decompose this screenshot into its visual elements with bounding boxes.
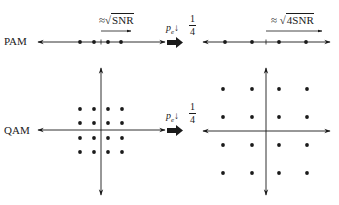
qam-fraction: 1 4 bbox=[189, 102, 196, 125]
constellation-point bbox=[106, 107, 110, 111]
constellation-point bbox=[106, 136, 110, 140]
constellation-point bbox=[78, 40, 82, 44]
constellation-point bbox=[221, 115, 225, 119]
radicand: SNR bbox=[111, 13, 133, 26]
pam-error-prob-label: pe↓ bbox=[166, 22, 179, 36]
qam-after-constellation bbox=[203, 68, 330, 195]
constellation-point bbox=[78, 150, 82, 154]
constellation-point bbox=[120, 107, 124, 111]
sqrt-symbol: √ bbox=[280, 14, 286, 26]
constellation-point bbox=[250, 40, 254, 44]
constellation-point bbox=[250, 87, 254, 91]
qam-transition-arrow-icon bbox=[167, 125, 183, 136]
constellation-point bbox=[78, 136, 82, 140]
constellation-point bbox=[277, 143, 281, 147]
constellation-point bbox=[223, 40, 227, 44]
constellation-point bbox=[119, 40, 123, 44]
pam-fraction: 1 4 bbox=[189, 14, 196, 37]
constellation-point bbox=[250, 171, 254, 175]
constellation-point bbox=[221, 87, 225, 91]
constellation-point bbox=[106, 40, 110, 44]
pam-before-constellation bbox=[38, 40, 165, 45]
constellation-point bbox=[92, 150, 96, 154]
constellation-point bbox=[92, 40, 96, 44]
pam-transition-arrow-icon bbox=[167, 37, 183, 48]
qam-label: QAM bbox=[4, 125, 30, 136]
constellation-point bbox=[277, 115, 281, 119]
constellation-point bbox=[78, 107, 82, 111]
pam-label: PAM bbox=[4, 36, 27, 47]
down-arrow-icon: ↓ bbox=[174, 110, 179, 121]
constellation-point bbox=[120, 150, 124, 154]
fraction-numerator: 1 bbox=[189, 102, 196, 114]
constellation-point bbox=[305, 143, 309, 147]
constellation-point bbox=[250, 115, 254, 119]
pam-after-distance-label: ≈ √4SNR bbox=[271, 15, 314, 26]
fraction-denominator: 4 bbox=[190, 114, 195, 125]
constellation-point bbox=[277, 171, 281, 175]
fraction-denominator: 4 bbox=[190, 26, 195, 37]
constellation-point bbox=[304, 40, 308, 44]
down-arrow-icon: ↓ bbox=[174, 22, 179, 33]
constellation-point bbox=[221, 143, 225, 147]
constellation-point bbox=[92, 107, 96, 111]
constellation-point bbox=[120, 121, 124, 125]
pam-before-distance-label: ≈√SNR bbox=[99, 15, 134, 26]
pam-after-constellation bbox=[203, 40, 330, 45]
qam-error-prob-label: pe↓ bbox=[166, 110, 179, 124]
constellation-point bbox=[305, 171, 309, 175]
constellation-point bbox=[277, 87, 281, 91]
constellation-point bbox=[277, 40, 281, 44]
constellation-point bbox=[221, 171, 225, 175]
constellation-point bbox=[305, 87, 309, 91]
fraction-numerator: 1 bbox=[189, 14, 196, 26]
constellation-point bbox=[250, 143, 254, 147]
constellation-point bbox=[92, 136, 96, 140]
constellation-point bbox=[106, 150, 110, 154]
qam-before-constellation bbox=[38, 68, 165, 195]
constellation-point bbox=[120, 136, 124, 140]
constellation-point bbox=[305, 115, 309, 119]
radicand: 4SNR bbox=[286, 13, 314, 26]
constellation-point bbox=[106, 121, 110, 125]
approx-symbol: ≈ bbox=[271, 14, 277, 26]
constellation-point bbox=[78, 121, 82, 125]
constellation-point bbox=[92, 121, 96, 125]
